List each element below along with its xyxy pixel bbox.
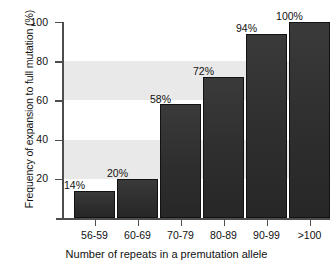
bar-56-59 — [74, 191, 115, 218]
y-tick-label-20: 20 — [14, 172, 48, 184]
x-tick-70-79 — [181, 219, 182, 226]
bar-value-label-90-99: 94% — [217, 22, 277, 34]
y-tick-80 — [55, 61, 62, 62]
bar-chart-figure: Frequency of expansion to full mutation … — [0, 0, 333, 269]
x-axis-title: Number of repeats in a premutation allel… — [0, 248, 333, 260]
bar-70-79 — [160, 104, 201, 218]
bar-over-100 — [289, 22, 330, 218]
y-tick-label-60: 60 — [14, 94, 48, 106]
bar-80-89 — [203, 77, 244, 218]
x-axis-line — [56, 218, 330, 220]
y-tick-100 — [55, 22, 62, 23]
bar-90-99 — [246, 34, 287, 218]
bar-value-label-60-69: 20% — [88, 167, 148, 179]
x-tick-90-99 — [267, 219, 268, 226]
bar-value-label-over-100: 100% — [260, 10, 320, 22]
bar-value-label-70-79: 58% — [131, 93, 191, 105]
x-tick-label-over-100: >100 — [280, 229, 333, 241]
bar-value-label-56-59: 14% — [45, 179, 105, 191]
y-tick-label-40: 40 — [14, 133, 48, 145]
y-tick-60 — [55, 100, 62, 101]
y-tick-40 — [55, 140, 62, 141]
y-tick-label-80: 80 — [14, 55, 48, 67]
bar-value-label-80-89: 72% — [174, 65, 234, 77]
y-tick-label-100: 100 — [14, 16, 48, 28]
x-tick-56-59 — [95, 219, 96, 226]
bar-60-69 — [117, 179, 158, 218]
x-tick-80-89 — [224, 219, 225, 226]
x-tick-60-69 — [138, 219, 139, 226]
x-tick-over-100 — [310, 219, 311, 226]
